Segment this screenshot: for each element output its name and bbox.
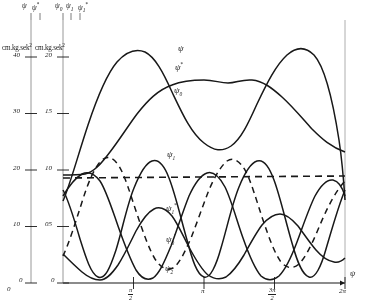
axis-2-tick-0: 0 [51,277,55,284]
curve-psi-star [63,176,345,178]
x-tick-3pi-over-2: 3π2 [268,285,276,302]
x-tick-2pi: 2π [339,288,346,295]
axis-1-tick-0: 0 [19,277,23,284]
x-tick-0: 0 [7,286,11,293]
curve-label-psi-1-star: ψ1* [166,203,177,215]
x-tick-pi: π [201,288,205,295]
curve-label-psi-2: ψ2 [165,264,173,275]
plot-frame [25,13,345,289]
curve-label-psi: ψ [178,44,184,53]
x-axis-arrow [340,281,345,286]
curve-label-psi-1: ψ1 [167,150,175,161]
axis-2-tick-20: 20 [45,52,52,59]
curve-psi-0-prime [63,173,345,280]
axis-1-tick-20: 20 [13,165,20,172]
axis-1-tick-30: 30 [13,108,20,115]
x-tick-pi-over-2: π2 [128,285,133,302]
curve-label-psi-0-prime: ψ0′ [166,234,175,246]
lower-curve-group [63,158,345,280]
axis-1-tick-40: 40 [13,52,20,59]
top-label-psi-1-star: ψ1* [78,2,88,13]
curve-label-psi-0: ψ0 [174,86,182,97]
top-label-psi-0: ψ0 [55,2,62,12]
top-axis-pointers [31,13,80,20]
axis-2-tick-15: 15 [45,108,52,115]
axis-1-tick-10: 10 [13,221,20,228]
top-label-psi-star: ψ* [32,2,39,11]
upper-curve-group [63,49,345,201]
curve-psi-2 [63,208,345,280]
top-label-psi: ψ [22,2,27,10]
curve-psi [63,80,345,175]
axis-2-tick-05: 05 [45,221,52,228]
x-axis-label: ψ [350,269,355,278]
axis-2-tick-10: 10 [45,165,52,172]
curve-label-psi-star: ψ* [175,62,183,72]
top-label-psi-1: ψ1 [66,2,73,12]
